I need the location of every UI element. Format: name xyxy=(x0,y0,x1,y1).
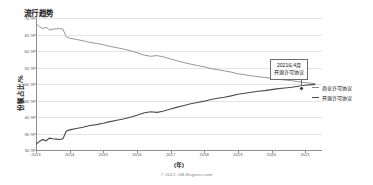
popularity-trend-chart: 流行趋势 份额占比/% 70 %65 %60 %55 %50 %45 %40 %… xyxy=(0,0,373,185)
legend: 商业许可协议 开源许可协议 xyxy=(312,84,352,103)
legend-label-commercial: 商业许可协议 xyxy=(322,84,352,91)
x-axis-line xyxy=(36,150,322,151)
x-tick-label: 2021 xyxy=(301,152,310,157)
chart-footer-attribution: © 2021, DB-Engines.com xyxy=(0,172,373,177)
y-tick-label: 65 % xyxy=(24,32,34,37)
x-tick-label: 2016 xyxy=(132,152,141,157)
x-tick-label: 2018 xyxy=(200,152,209,157)
y-axis-title: 份额占比/% xyxy=(15,75,25,111)
x-tick-label: 2017 xyxy=(166,152,175,157)
annotation-line-2: 开源许可协议 xyxy=(274,69,304,77)
y-tick-label: 70 % xyxy=(24,16,34,21)
annotation-box: 2021年4月 开源许可协议 xyxy=(270,59,308,80)
legend-swatch-icon-commercial xyxy=(312,87,319,88)
x-tick-label: 2013 xyxy=(31,152,40,157)
x-tick-label: 2020 xyxy=(267,152,276,157)
line-opensource-license xyxy=(36,84,315,144)
legend-item-opensource[interactable]: 开源许可协议 xyxy=(312,94,352,101)
y-tick-label: 45 % xyxy=(24,98,34,103)
y-tick-label: 60 % xyxy=(24,49,34,54)
annotation-line-1: 2021年4月 xyxy=(274,62,304,70)
x-tick-label: 2019 xyxy=(233,152,242,157)
x-axis-title: (年) xyxy=(36,160,322,169)
y-tick-label: 55 % xyxy=(24,65,34,70)
y-tick-label: 35 % xyxy=(24,131,34,136)
series-lines xyxy=(36,18,322,150)
x-tick-label: 2015 xyxy=(99,152,108,157)
legend-swatch-icon-opensource xyxy=(312,97,319,98)
y-tick-label: 40 % xyxy=(24,115,34,120)
legend-item-commercial[interactable]: 商业许可协议 xyxy=(312,84,352,91)
x-tick-label: 2014 xyxy=(65,152,74,157)
legend-label-opensource: 开源许可协议 xyxy=(322,94,352,101)
y-tick-label: 50 % xyxy=(24,82,34,87)
